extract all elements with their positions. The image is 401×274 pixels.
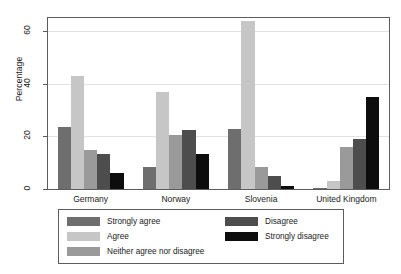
- bar: [97, 154, 110, 190]
- bar: [281, 186, 294, 189]
- bar-chart-figure: Percentage 0204060 GermanyNorwaySlovenia…: [0, 0, 401, 274]
- bar: [156, 92, 169, 189]
- bar: [268, 176, 281, 189]
- legend-label: Strongly disagree: [265, 232, 329, 241]
- bar: [313, 188, 326, 189]
- bar: [255, 167, 268, 189]
- bar: [366, 97, 379, 189]
- bar: [182, 130, 195, 189]
- bar: [71, 76, 84, 189]
- x-axis-label: Germany: [48, 194, 133, 204]
- x-axis-label: Slovenia: [219, 194, 304, 204]
- bar: [340, 147, 353, 189]
- x-axis-label: Norway: [133, 194, 218, 204]
- plot-area: [47, 17, 390, 190]
- legend-item[interactable]: Agree: [67, 230, 129, 243]
- legend-label: Agree: [107, 232, 129, 241]
- bar: [143, 167, 156, 189]
- legend-item[interactable]: Strongly disagree: [225, 230, 329, 243]
- bars-layer: [48, 18, 389, 189]
- bar: [327, 181, 340, 189]
- bar: [84, 150, 97, 189]
- bar: [196, 154, 209, 190]
- bar-group: [58, 18, 124, 189]
- legend: Strongly agreeAgreeNeither agree nor dis…: [58, 209, 344, 264]
- bar: [228, 129, 241, 190]
- legend-label: Neither agree nor disagree: [107, 247, 204, 256]
- bar-group: [228, 18, 294, 189]
- legend-label: Disagree: [265, 217, 298, 226]
- legend-item[interactable]: Neither agree nor disagree: [67, 245, 204, 258]
- y-tick-label: 20: [22, 122, 32, 148]
- legend-swatch: [225, 232, 258, 241]
- bar: [110, 173, 123, 189]
- legend-swatch: [225, 217, 258, 226]
- bar: [241, 21, 254, 189]
- bar: [353, 139, 366, 189]
- legend-item[interactable]: Strongly agree: [67, 215, 160, 228]
- bar-group: [313, 18, 379, 189]
- bar: [169, 135, 182, 189]
- legend-swatch: [67, 247, 100, 256]
- legend-swatch: [67, 232, 100, 241]
- legend-swatch: [67, 217, 100, 226]
- bar-group: [143, 18, 209, 189]
- x-axis-label: United Kingdom: [304, 194, 389, 204]
- legend-item[interactable]: Disagree: [225, 215, 298, 228]
- y-tick-label: 0: [22, 175, 32, 201]
- bar: [58, 127, 71, 189]
- y-tick-label: 40: [22, 70, 32, 96]
- y-tick-label: 60: [22, 17, 32, 43]
- legend-label: Strongly agree: [107, 217, 160, 226]
